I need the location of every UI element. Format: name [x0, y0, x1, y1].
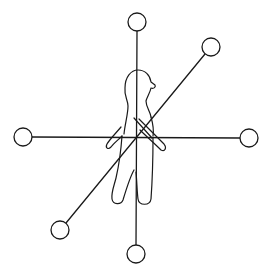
axes — [32, 31, 240, 245]
body-axes-diagram — [0, 0, 266, 270]
node-left — [14, 128, 32, 146]
diagonal-axis — [66, 54, 205, 223]
diagram-canvas — [0, 0, 266, 270]
node-upper-right — [202, 38, 220, 56]
node-lower-left — [51, 221, 69, 239]
node-top — [128, 13, 146, 31]
node-right — [240, 129, 258, 147]
node-bottom — [127, 245, 145, 263]
figure-legs — [112, 136, 153, 204]
